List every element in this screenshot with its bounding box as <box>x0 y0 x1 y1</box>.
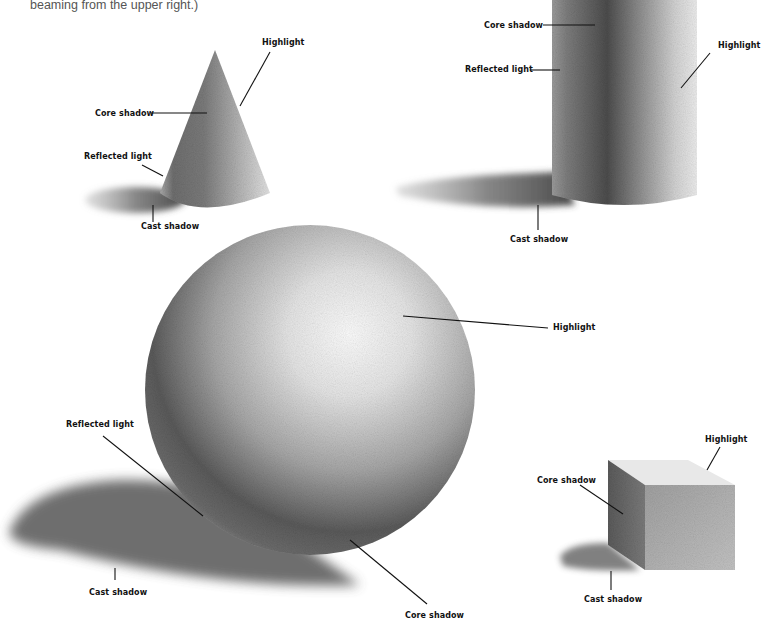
cone-label-reflected-light: Reflected light <box>84 152 152 161</box>
cylinder-figure <box>395 0 697 207</box>
cylinder-label-reflected-light: Reflected light <box>465 65 533 74</box>
cube-front-face <box>645 485 735 570</box>
sphere-label-cast-shadow: Cast shadow <box>89 588 147 597</box>
cone-figure <box>85 50 270 213</box>
cylinder-body <box>552 0 697 205</box>
cone-body <box>160 50 270 208</box>
cone-label-core-shadow: Core shadow <box>95 109 154 118</box>
cube-label-highlight: Highlight <box>705 435 748 444</box>
sphere-label-core-shadow: Core shadow <box>405 611 464 620</box>
cylinder-label-core-shadow: Core shadow <box>484 21 543 30</box>
sphere-label-reflected-light: Reflected light <box>66 420 134 429</box>
cylinder-label-highlight: Highlight <box>718 41 761 50</box>
sphere-figure <box>10 225 475 586</box>
cube-label-cast-shadow: Cast shadow <box>584 595 642 604</box>
sphere-label-highlight: Highlight <box>553 323 596 332</box>
cone-label-highlight: Highlight <box>262 38 305 47</box>
sphere-body <box>145 225 475 555</box>
cone-label-cast-shadow: Cast shadow <box>141 222 199 231</box>
cube-label-core-shadow: Core shadow <box>537 476 596 485</box>
cylinder-label-cast-shadow: Cast shadow <box>510 235 568 244</box>
cylinder-cast-shadow <box>395 172 575 207</box>
